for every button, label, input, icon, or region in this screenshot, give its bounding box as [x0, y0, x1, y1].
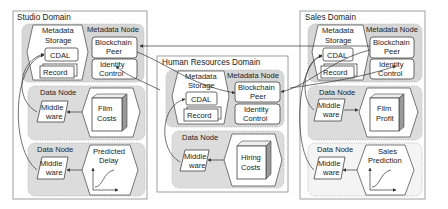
- sales-data-node-1-label: Data Node: [319, 88, 355, 97]
- sales-data-node-2-label: Data Node: [317, 145, 353, 154]
- hr-middleware-label-1: Middle: [184, 152, 206, 161]
- hr-record-label: Record: [187, 111, 211, 120]
- sales-resource-2-label-1: Sales: [378, 147, 397, 156]
- sales-middleware-1-label-2: ware: [322, 110, 339, 119]
- sales-middleware-1-label-1: Middle: [318, 101, 340, 110]
- sales-storage-label-2: Storage: [325, 36, 352, 45]
- hr-resource-label-2: Costs: [241, 163, 261, 172]
- hr-cdal-label: CDAL: [191, 95, 211, 104]
- studio-data-node-2-label: Data Node: [37, 145, 73, 154]
- hr-domain: Human Resources Domain Metadata Node Met…: [157, 56, 288, 192]
- hr-identity-label-1: Identity: [244, 105, 269, 114]
- studio-middleware-1-label-2: ware: [45, 112, 62, 121]
- hr-blockchain-label-1: Blockchain: [238, 83, 275, 92]
- studio-resource-1-label-1: Film: [98, 104, 112, 113]
- sales-film-profit-cube-top: [370, 94, 404, 98]
- studio-blockchain-label-1: Blockchain: [95, 38, 132, 47]
- hr-blockchain-label-2: Peer: [250, 92, 267, 101]
- studio-middleware-2-label-1: Middle: [40, 159, 62, 168]
- sales-middleware-2-label-2: ware: [322, 168, 339, 177]
- hr-resource-label-1: Hiring: [241, 153, 261, 162]
- sales-storage-label-1: Metadata: [322, 26, 354, 35]
- sales-cdal-label: CDAL: [327, 51, 347, 60]
- studio-storage-label-2: Storage: [45, 36, 72, 45]
- studio-middleware-2-label-2: ware: [45, 168, 62, 177]
- studio-resource-2-label-1: Predicted: [93, 147, 125, 156]
- studio-storage-label-1: Metadata: [42, 26, 74, 35]
- hr-hiring-costs-cube-side: [266, 141, 271, 179]
- hr-identity-label-2: Control: [243, 114, 268, 123]
- sales-film-profit-cube-side: [399, 94, 404, 131]
- studio-identity-label-2: Control: [99, 69, 124, 78]
- studio-film-costs-cube-top: [92, 94, 127, 98]
- sales-resource-2-label-2: Prediction: [368, 156, 402, 165]
- sales-resource-1-label-1: Film: [377, 104, 391, 113]
- studio-resource-1-label-2: Costs: [97, 114, 117, 123]
- sales-blockchain-label-1: Blockchain: [373, 38, 410, 47]
- sales-record-label: Record: [323, 68, 347, 77]
- hr-data-node-label: Data Node: [182, 133, 218, 142]
- studio-film-costs-cube-side: [122, 94, 127, 131]
- federated-architecture-diagram: Studio Domain Metadata Node Metadata Sto…: [0, 0, 448, 209]
- hr-middleware-label-2: ware: [188, 161, 205, 170]
- studio-domain: Studio Domain Metadata Node Metadata Sto…: [13, 11, 147, 199]
- sales-resource-1-label-2: Profit: [376, 114, 395, 123]
- studio-blockchain-label-2: Peer: [106, 47, 123, 56]
- studio-record-label: Record: [43, 68, 67, 77]
- studio-data-node-1-label: Data Node: [40, 88, 76, 97]
- sales-blockchain-label-2: Peer: [384, 47, 401, 56]
- studio-domain-title: Studio Domain: [17, 13, 71, 22]
- studio-resource-2-label-2: Delay: [99, 156, 119, 165]
- studio-cdal-label: CDAL: [50, 51, 70, 60]
- hr-storage-label-2: Storage: [188, 81, 215, 90]
- sales-domain: Sales Domain Metadata Node Metadata Stor…: [300, 11, 425, 199]
- sales-middleware-2-label-1: Middle: [318, 159, 340, 168]
- studio-metadata-node-label: Metadata Node: [87, 25, 139, 34]
- studio-middleware-1-label-1: Middle: [41, 103, 63, 112]
- hr-domain-title: Human Resources Domain: [162, 58, 261, 67]
- hr-storage-label-1: Metadata: [185, 72, 217, 81]
- sales-domain-title: Sales Domain: [305, 13, 356, 22]
- hr-metadata-node-label: Metadata Node: [227, 71, 279, 80]
- sales-metadata-node-label: Metadata Node: [366, 25, 418, 34]
- hr-hiring-costs-cube-top: [237, 141, 271, 146]
- studio-identity-label-1: Identity: [100, 60, 125, 69]
